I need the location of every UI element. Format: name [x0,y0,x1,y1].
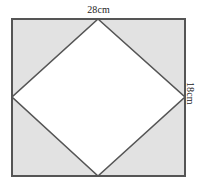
height-dimension-label: 18cm [185,82,195,105]
geometry-figure: 28cm 18cm [0,0,208,185]
width-dimension-label: 28cm [0,5,197,15]
figure-canvas [0,0,208,185]
